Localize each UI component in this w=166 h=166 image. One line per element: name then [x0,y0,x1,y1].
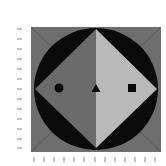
circle-marker [55,84,64,93]
square-marker [128,84,136,92]
left-axis-ticks [17,29,22,148]
geometric-diagram [0,0,166,166]
bottom-axis-ticks [34,157,155,162]
